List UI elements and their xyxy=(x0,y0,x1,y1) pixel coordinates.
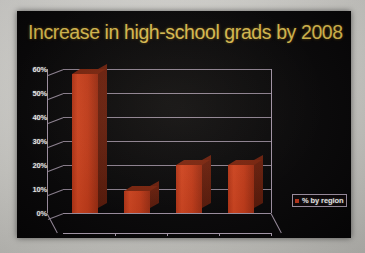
floor-tick xyxy=(115,233,116,236)
bar[interactable] xyxy=(72,65,98,213)
y-axis-tick-label: 60% xyxy=(21,65,47,74)
plot-floor xyxy=(47,213,287,233)
x-axis-tick-label: Midwest xyxy=(126,237,157,238)
y-axis-tick-label: 50% xyxy=(21,89,47,98)
side-wall-rung xyxy=(48,189,63,196)
y-axis: 0%10%20%30%40%50%60% xyxy=(17,69,47,213)
bar-front-face xyxy=(124,191,150,213)
side-wall-rung xyxy=(48,117,63,124)
page-title: Increase in high-school grads by 2008 xyxy=(28,21,344,44)
side-wall-rung xyxy=(48,165,63,172)
side-wall-rung xyxy=(48,141,63,148)
side-wall-rung xyxy=(48,93,63,100)
bar-side-face xyxy=(98,64,107,208)
bar[interactable] xyxy=(124,182,150,213)
bar-series xyxy=(63,69,271,213)
plot-side-wall xyxy=(47,69,63,213)
y-axis-tick-label: 20% xyxy=(21,161,47,170)
x-axis: WestMidwestNortheastSouth xyxy=(63,237,293,238)
legend-label: % by region xyxy=(302,196,343,205)
y-axis-tick-label: 30% xyxy=(21,137,47,146)
bar-front-face xyxy=(176,165,202,213)
y-axis-tick-label: 10% xyxy=(21,185,47,194)
legend-swatch-icon xyxy=(295,199,299,203)
floor-left-edge xyxy=(47,213,58,233)
side-wall-rung xyxy=(48,69,63,76)
chart-legend: % by region xyxy=(292,194,347,207)
floor-tick xyxy=(167,233,168,236)
y-axis-tick-label: 40% xyxy=(21,113,47,122)
bar[interactable] xyxy=(228,156,254,213)
floor-back-edge xyxy=(63,213,271,214)
x-axis-tick-label: West xyxy=(80,237,99,238)
y-axis-tick-label: 0% xyxy=(21,209,47,218)
floor-tick xyxy=(271,233,272,236)
floor-tick xyxy=(219,233,220,236)
floor-right-edge xyxy=(271,213,282,233)
presentation-slide: Increase in high-school grads by 2008 0%… xyxy=(17,11,351,238)
x-axis-tick-label: Northeast xyxy=(175,237,211,238)
bar-front-face xyxy=(72,74,98,213)
photo-frame: Increase in high-school grads by 2008 0%… xyxy=(0,0,365,253)
bar[interactable] xyxy=(176,156,202,213)
bar-chart: 0%10%20%30%40%50%60% WestMidwestNortheas… xyxy=(17,51,351,238)
bar-front-face xyxy=(228,165,254,213)
plot-right-edge xyxy=(271,69,272,213)
x-axis-tick-label: South xyxy=(234,237,256,238)
